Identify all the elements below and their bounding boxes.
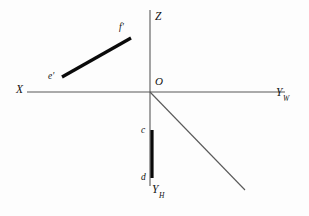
axis-label-x: X bbox=[16, 84, 23, 96]
axis-label-x-text: X bbox=[16, 83, 23, 95]
point-label-e-prime: e' bbox=[48, 72, 54, 82]
axis-label-z-text: Z bbox=[155, 10, 161, 22]
origin-label: O bbox=[155, 76, 163, 87]
point-label-f-prime: f' bbox=[119, 23, 124, 33]
yh-axis-line bbox=[150, 92, 245, 190]
origin-label-text: O bbox=[155, 75, 163, 87]
point-label-d-text: d bbox=[141, 172, 146, 182]
axis-label-yh-text: Y bbox=[152, 183, 158, 195]
axis-label-z: Z bbox=[155, 11, 161, 23]
point-label-c-text: c bbox=[141, 125, 145, 135]
axis-label-yh: YH bbox=[152, 184, 164, 198]
segment-e-prime-f-prime bbox=[62, 38, 131, 77]
point-label-f-prime-text: f' bbox=[119, 22, 124, 32]
point-label-d: d bbox=[141, 173, 146, 183]
projection-diagram: X YW Z YH O e' f' c d bbox=[0, 0, 309, 216]
axis-label-yw-text: Y bbox=[276, 86, 282, 98]
point-label-e-prime-text: e' bbox=[48, 71, 54, 81]
axis-label-yw-subscript: W bbox=[283, 94, 289, 103]
axis-label-yh-subscript: H bbox=[159, 191, 164, 200]
point-label-c: c bbox=[141, 126, 145, 136]
axis-label-yw: YW bbox=[276, 87, 289, 101]
